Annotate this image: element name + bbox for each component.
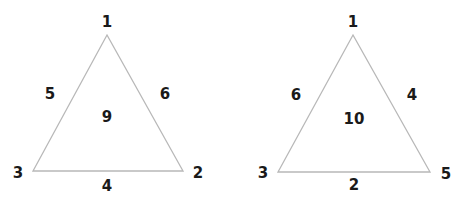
t2-center: 10 xyxy=(344,112,365,127)
t1-edge-left: 5 xyxy=(45,87,55,102)
triangle-right xyxy=(278,35,430,172)
triangle-left xyxy=(33,35,183,171)
t2-vertex-bottom-left: 3 xyxy=(258,166,268,181)
t2-vertex-top: 1 xyxy=(348,15,358,30)
t1-vertex-top: 1 xyxy=(102,15,112,30)
t2-vertex-bottom-right: 5 xyxy=(441,167,451,182)
t2-edge-bottom: 2 xyxy=(349,178,359,193)
t1-edge-right: 6 xyxy=(160,87,170,102)
t1-vertex-bottom-left: 3 xyxy=(13,166,23,181)
t2-edge-left: 6 xyxy=(291,88,301,103)
triangle-diagram xyxy=(0,0,466,205)
t1-vertex-bottom-right: 2 xyxy=(193,166,203,181)
t1-center: 9 xyxy=(102,110,112,125)
t1-edge-bottom: 4 xyxy=(102,179,112,194)
t2-edge-right: 4 xyxy=(407,88,417,103)
